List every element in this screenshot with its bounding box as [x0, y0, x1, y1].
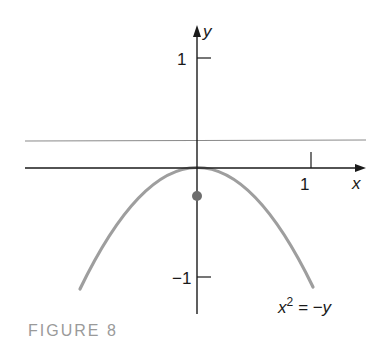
equation-label: x2 = −y: [277, 295, 332, 317]
equation-rhs: = −y: [293, 298, 332, 317]
x-tick-label-1: 1: [300, 175, 309, 194]
equation-base: x: [277, 298, 287, 317]
x-axis-label: x: [351, 174, 361, 193]
y-tick-label-1: 1: [177, 50, 186, 69]
focus-point: [192, 191, 202, 201]
y-tick-label-neg1: −1: [172, 269, 191, 288]
figure-caption: FIGURE 8: [28, 322, 118, 340]
y-axis-arrow-icon: [193, 25, 201, 37]
x-axis-arrow-icon: [355, 164, 366, 172]
y-axis-label: y: [202, 22, 213, 41]
directrix-line: [25, 140, 366, 141]
